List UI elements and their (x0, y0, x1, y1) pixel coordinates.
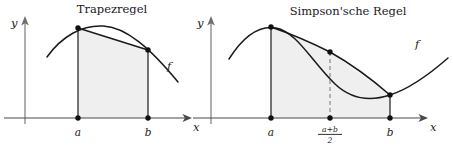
tick-label-a-right: a (268, 126, 274, 138)
figure-background (0, 0, 453, 146)
panel-title-simpson: Simpson'sche Regel (290, 4, 407, 18)
y-axis-label-right: y (196, 16, 204, 30)
tick-label-b-right: b (387, 126, 394, 138)
node-dot-fmid-right (327, 49, 332, 54)
tick-dot-a-right (268, 115, 273, 120)
tick-label-a-left: a (75, 126, 81, 138)
node-dot-fa-right (268, 24, 273, 29)
numerical-integration-figure: Trapezregel y x f a b (0, 0, 453, 146)
x-axis-label-right: x (430, 120, 437, 134)
midpoint-numerator: a+b (322, 125, 338, 134)
x-axis-label-left: x (193, 120, 200, 134)
tick-dot-b-right (387, 115, 392, 120)
midpoint-denominator: 2 (327, 136, 333, 145)
node-dot-fb-right (387, 92, 392, 97)
node-dot-fa-left (75, 25, 80, 30)
tick-dot-a-left (75, 115, 80, 120)
tick-dot-mid-right (327, 115, 332, 120)
panel-title-trapezregel: Trapezregel (77, 2, 148, 16)
y-axis-label-left: y (10, 16, 18, 30)
node-dot-fb-left (145, 47, 150, 52)
tick-dot-b-left (145, 115, 150, 120)
tick-label-b-left: b (145, 126, 152, 138)
figure-canvas: Trapezregel y x f a b (0, 0, 453, 146)
